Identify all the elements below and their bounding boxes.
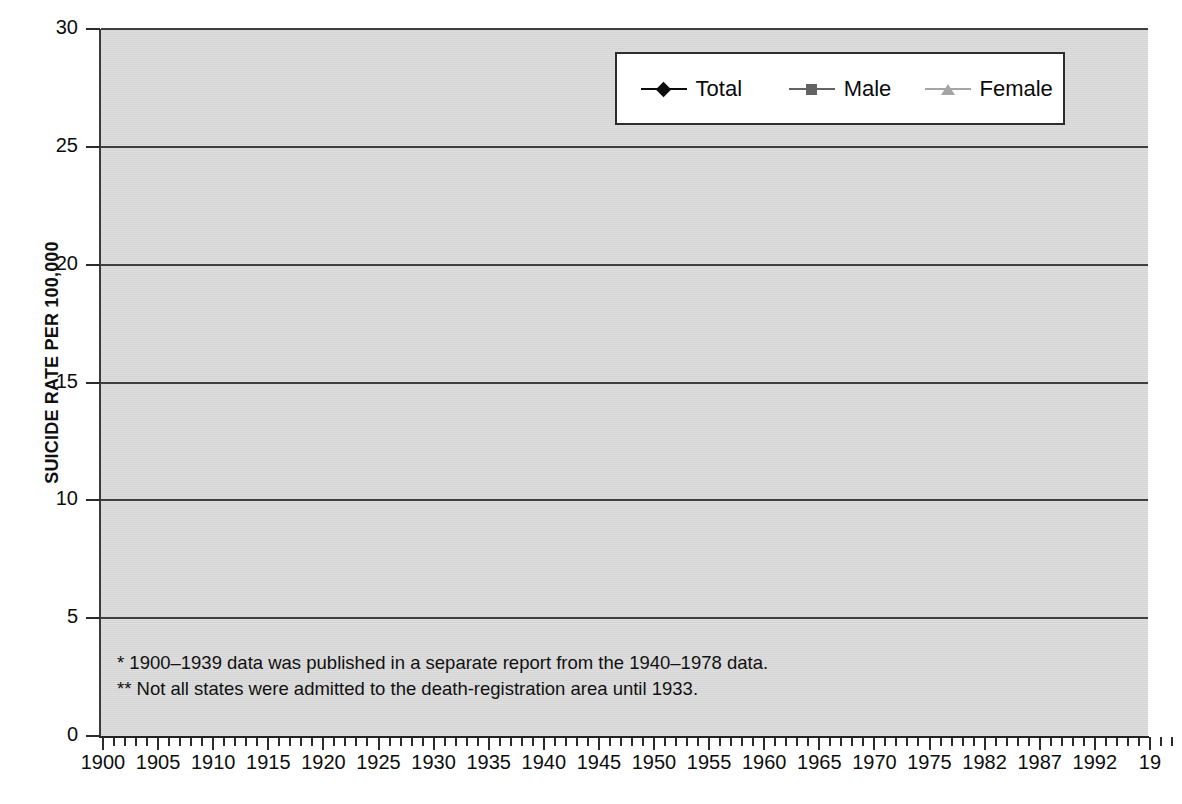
x-tick-label-1975: 1975	[907, 751, 952, 774]
x-tick-1954	[697, 737, 699, 746]
legend-label: Female	[980, 78, 1053, 100]
legend-item-female[interactable]: Female	[914, 78, 1063, 100]
gridline-10	[101, 499, 1148, 501]
x-tick-1917	[289, 737, 291, 746]
y-tick-30	[86, 28, 100, 30]
x-tick-1970	[873, 737, 875, 750]
y-tick-25	[86, 146, 100, 148]
x-tick-1997	[1171, 737, 1173, 746]
x-tick-1960	[763, 737, 765, 750]
x-tick-1944	[587, 737, 589, 746]
gridline-5	[101, 617, 1148, 619]
x-tick-1936	[499, 737, 501, 746]
x-tick-label-19: 19	[1139, 751, 1161, 774]
x-tick-1901	[113, 737, 115, 746]
x-tick-1914	[256, 737, 258, 746]
x-tick-1918	[300, 737, 302, 746]
x-tick-label-1905: 1905	[136, 751, 181, 774]
x-tick-label-1960: 1960	[742, 751, 787, 774]
x-tick-1971	[884, 737, 886, 746]
y-tick-label-25: 25	[18, 134, 78, 157]
x-tick-1982	[1006, 737, 1008, 746]
legend-symbol	[941, 84, 955, 95]
legend-label: Male	[844, 78, 892, 100]
diamond-icon	[641, 80, 687, 98]
x-tick-label-1925: 1925	[356, 751, 401, 774]
x-tick-1929	[422, 737, 424, 746]
x-tick-1974	[917, 737, 919, 746]
x-tick-1958	[741, 737, 743, 746]
x-tick-1912	[234, 737, 236, 746]
x-tick-1931	[444, 737, 446, 746]
x-tick-1989	[1083, 737, 1085, 746]
x-tick-1952	[675, 737, 677, 746]
legend-label: Total	[696, 78, 742, 100]
x-tick-1900	[102, 737, 104, 750]
legend-item-total[interactable]: Total	[617, 78, 766, 100]
x-tick-1975	[929, 737, 931, 750]
x-tick-1904	[146, 737, 148, 746]
x-tick-1927	[400, 737, 402, 746]
footnote-1: * 1900–1939 data was published in a sepa…	[117, 650, 768, 676]
x-tick-label-1900: 1900	[81, 751, 126, 774]
x-tick-1953	[686, 737, 688, 746]
x-tick-1928	[411, 737, 413, 746]
y-tick-5	[86, 617, 100, 619]
x-tick-1983	[1017, 737, 1019, 746]
x-tick-1981	[995, 737, 997, 746]
y-tick-label-30: 30	[18, 16, 78, 39]
x-tick-1961	[774, 737, 776, 746]
x-tick-1946	[609, 737, 611, 746]
x-tick-1942	[565, 737, 567, 746]
x-tick-1995	[1149, 737, 1151, 750]
x-tick-1935	[488, 737, 490, 750]
x-tick-label-1982: 1982	[962, 751, 1007, 774]
triangle-icon	[925, 80, 971, 98]
gridline-25	[101, 146, 1148, 148]
x-tick-label-1965: 1965	[797, 751, 842, 774]
gridline-15	[101, 382, 1148, 384]
x-tick-1932	[455, 737, 457, 746]
square-icon	[789, 80, 835, 98]
x-tick-1910	[212, 737, 214, 750]
x-tick-1913	[245, 737, 247, 746]
x-tick-1940	[543, 737, 545, 750]
x-tick-1993	[1127, 737, 1129, 746]
x-tick-label-1910: 1910	[191, 751, 236, 774]
x-tick-label-1970: 1970	[852, 751, 897, 774]
x-tick-1959	[752, 737, 754, 746]
y-tick-label-0: 0	[18, 723, 78, 746]
x-tick-1938	[521, 737, 523, 746]
x-tick-1919	[311, 737, 313, 746]
x-tick-label-1940: 1940	[522, 751, 567, 774]
y-tick-0	[86, 735, 100, 737]
chart-root: SUICIDE RATE PER 100,000 051015202530 19…	[0, 0, 1182, 804]
x-tick-label-1920: 1920	[301, 751, 346, 774]
x-tick-1905	[157, 737, 159, 750]
x-tick-1988	[1072, 737, 1074, 746]
x-tick-1934	[477, 737, 479, 746]
x-tick-1956	[719, 737, 721, 746]
x-tick-1987	[1061, 737, 1063, 746]
footnote-2: ** Not all states were admitted to the d…	[117, 676, 768, 702]
x-tick-label-1950: 1950	[632, 751, 677, 774]
gridline-20	[101, 264, 1148, 266]
y-tick-label-5: 5	[18, 605, 78, 628]
x-tick-1926	[389, 737, 391, 746]
x-tick-1915	[267, 737, 269, 750]
x-tick-1972	[895, 737, 897, 746]
legend-symbol	[655, 81, 671, 97]
x-tick-1977	[951, 737, 953, 746]
x-tick-label-1992: 1992	[1073, 751, 1118, 774]
x-tick-1968	[851, 737, 853, 746]
y-tick-label-20: 20	[18, 252, 78, 275]
x-tick-1984	[1028, 737, 1030, 746]
y-tick-label-10: 10	[18, 487, 78, 510]
legend-item-male[interactable]: Male	[766, 78, 915, 100]
x-tick-label-1987: 1987	[1017, 751, 1062, 774]
plot-area	[101, 29, 1148, 736]
y-tick-10	[86, 499, 100, 501]
x-tick-1903	[135, 737, 137, 746]
legend-box: TotalMaleFemale	[615, 52, 1065, 125]
footnotes: * 1900–1939 data was published in a sepa…	[117, 650, 768, 703]
